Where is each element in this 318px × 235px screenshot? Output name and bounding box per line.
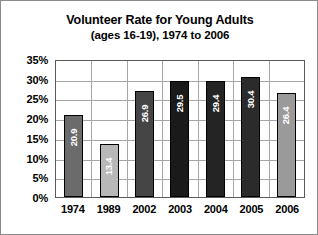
bar[interactable]: 20.9 [64,115,83,197]
x-axis-tick-label: 2002 [126,203,162,215]
bar-slot: 29.5 [162,61,197,197]
bar-slot: 13.4 [91,61,126,197]
y-axis-tick-label: 15% [27,133,48,144]
y-axis-tick-label: 25% [27,94,48,105]
chart-title-block: Volunteer Rate for Young Adults (ages 16… [1,12,318,43]
bar-value-label: 13.4 [104,158,115,176]
plot-area: 20.913.426.929.529.430.426.4 [55,60,305,198]
bar-value-label: 26.4 [281,107,292,125]
bar-slot: 30.4 [233,61,268,197]
x-axis-tick-label: 1974 [55,203,91,215]
bar[interactable]: 30.4 [241,77,260,197]
bar-slot: 26.4 [269,61,304,197]
chart-title: Volunteer Rate for Young Adults [1,12,318,28]
bar-slot: 29.4 [198,61,233,197]
bar-value-label: 30.4 [245,91,256,109]
bar[interactable]: 29.5 [170,81,189,197]
chart-subtitle: (ages 16-19), 1974 to 2006 [1,28,318,43]
x-axis-tick-label: 2005 [234,203,270,215]
bar-value-label: 29.5 [174,94,185,112]
y-axis-tick-label: 20% [27,114,48,125]
x-axis: 1974198920022003200420052006 [55,203,305,215]
bar[interactable]: 26.4 [277,93,296,197]
x-axis-tick-label: 1989 [91,203,127,215]
y-axis-tick-label: 10% [27,153,48,164]
bar-value-label: 20.9 [68,128,79,146]
bar-slot: 26.9 [127,61,162,197]
x-axis-tick-label: 2004 [198,203,234,215]
x-axis-tick-label: 2003 [162,203,198,215]
bar-value-label: 29.4 [210,95,221,113]
y-axis-tick-label: 5% [33,173,49,184]
bar[interactable]: 26.9 [135,91,154,197]
bar-slot: 20.9 [56,61,91,197]
y-axis-tick-label: 30% [27,74,48,85]
y-axis: 0%5%10%15%20%25%30%35% [1,60,51,198]
y-axis-tick-label: 0% [33,193,49,204]
bars-layer: 20.913.426.929.529.430.426.4 [56,61,304,197]
x-axis-tick-label: 2006 [269,203,305,215]
bar[interactable]: 13.4 [100,144,119,197]
bar-value-label: 26.9 [139,105,150,123]
bar[interactable]: 29.4 [206,81,225,197]
chart-figure: Volunteer Rate for Young Adults (ages 16… [0,0,318,235]
y-axis-tick-label: 35% [27,55,48,66]
